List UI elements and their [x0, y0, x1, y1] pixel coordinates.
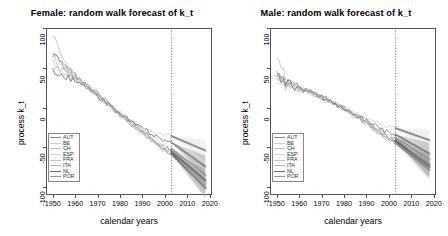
legend-male: AUTBECHESPFRAITANLPOR — [272, 133, 304, 182]
x-tick-label: 1950 — [267, 199, 287, 208]
x-tick-label: 2000 — [155, 199, 175, 208]
x-tick-label: 1980 — [334, 199, 354, 208]
x-tick-mark — [411, 195, 412, 198]
legend-line-swatch-icon — [274, 160, 285, 161]
x-tick-label: 2020 — [424, 199, 444, 208]
panel-male: Male: random walk forecast of k_t proces… — [224, 0, 448, 236]
x-tick-label: 1990 — [356, 199, 376, 208]
x-tick-mark — [165, 195, 166, 198]
x-tick-mark — [322, 195, 323, 198]
legend-line-swatch-icon — [50, 171, 61, 172]
figure-two-panel-forecast: Female: random walk forecast of k_t proc… — [0, 0, 448, 236]
legend-line-swatch-icon — [274, 171, 285, 172]
legend-item-label: POR — [63, 174, 74, 180]
legend-line-swatch-icon — [50, 148, 61, 149]
legend-line-swatch-icon — [274, 148, 285, 149]
x-tick-label: 1950 — [43, 199, 63, 208]
legend-line-swatch-icon — [50, 160, 61, 161]
legend-line-swatch-icon — [50, 176, 61, 177]
legend-line-swatch-icon — [50, 154, 61, 155]
legend-item-label: POR — [287, 174, 298, 180]
legend-line-swatch-icon — [50, 165, 61, 166]
x-tick-mark — [389, 195, 390, 198]
x-tick-label: 2010 — [401, 199, 421, 208]
y-tick-label: -50 — [262, 148, 271, 170]
x-tick-label: 2010 — [177, 199, 197, 208]
legend-item-por[interactable]: POR — [274, 174, 301, 180]
legend-line-swatch-icon — [274, 176, 285, 177]
x-tick-mark — [210, 195, 211, 198]
legend-line-swatch-icon — [274, 143, 285, 144]
x-tick-mark — [53, 195, 54, 198]
legend-line-swatch-icon — [274, 154, 285, 155]
legend-line-swatch-icon — [50, 143, 61, 144]
x-tick-mark — [120, 195, 121, 198]
x-tick-mark — [98, 195, 99, 198]
x-tick-label: 1980 — [110, 199, 130, 208]
x-tick-label: 2020 — [200, 199, 220, 208]
x-tick-mark — [142, 195, 143, 198]
y-tick-label: 50 — [262, 68, 271, 90]
y-tick-label: -50 — [38, 148, 47, 170]
x-tick-mark — [434, 195, 435, 198]
x-tick-label: 1970 — [88, 199, 108, 208]
legend-line-swatch-icon — [274, 165, 285, 166]
x-tick-mark — [299, 195, 300, 198]
x-tick-mark — [187, 195, 188, 198]
y-tick-label: 50 — [38, 68, 47, 90]
legend-item-por[interactable]: POR — [50, 174, 77, 180]
y-tick-label: 0 — [38, 108, 47, 130]
x-tick-mark — [75, 195, 76, 198]
x-tick-label: 2000 — [379, 199, 399, 208]
x-tick-mark — [277, 195, 278, 198]
y-tick-label: 100 — [38, 29, 47, 51]
series-history-CH — [277, 59, 396, 140]
x-tick-label: 1990 — [132, 199, 152, 208]
x-tick-mark — [344, 195, 345, 198]
y-tick-label: 0 — [262, 108, 271, 130]
panel-female: Female: random walk forecast of k_t proc… — [0, 0, 224, 236]
x-tick-label: 1970 — [312, 199, 332, 208]
legend-female: AUTBECHESPFRAITANLPOR — [48, 133, 80, 182]
legend-line-swatch-icon — [50, 137, 61, 138]
x-tick-label: 1960 — [289, 199, 309, 208]
x-tick-mark — [366, 195, 367, 198]
y-tick-label: 100 — [262, 29, 271, 51]
legend-line-swatch-icon — [274, 137, 285, 138]
x-tick-label: 1960 — [65, 199, 85, 208]
